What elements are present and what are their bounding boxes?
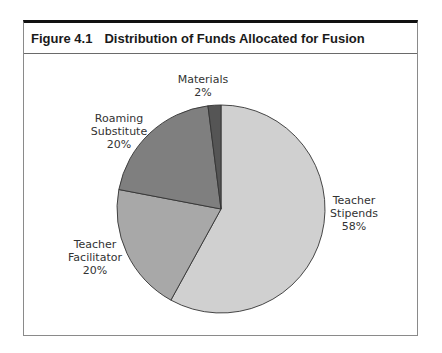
label-roaming-name2: Substitute xyxy=(91,125,148,138)
pie-chart: Materials 2% Roaming Substitute 20% Teac… xyxy=(0,0,442,353)
label-facilitator-name1: Teacher xyxy=(73,238,117,251)
label-materials-name: Materials xyxy=(178,73,229,86)
label-stipends-name2: Stipends xyxy=(330,207,378,220)
label-roaming-name1: Roaming xyxy=(95,112,143,125)
label-roaming-pct: 20% xyxy=(107,138,131,151)
label-facilitator-pct: 20% xyxy=(83,264,107,277)
label-facilitator-name2: Facilitator xyxy=(68,251,122,264)
pie-slices xyxy=(117,105,325,313)
label-stipends-pct: 58% xyxy=(342,220,366,233)
label-stipends-name1: Teacher xyxy=(332,194,376,207)
label-materials-pct: 2% xyxy=(194,86,211,99)
